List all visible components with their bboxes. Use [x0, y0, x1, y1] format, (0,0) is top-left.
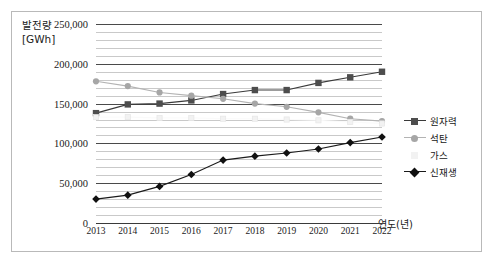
data-point-신재생-2014	[124, 191, 132, 199]
data-point-원자력-2022	[379, 69, 385, 75]
legend-marker-swatch	[411, 152, 418, 159]
data-point-가스-2019	[284, 117, 289, 122]
blank-marker	[404, 149, 426, 161]
legend-label: 가스	[430, 148, 448, 162]
circle-marker	[404, 132, 426, 144]
data-point-원자력-2018	[252, 87, 258, 93]
data-point-신재생-2020	[315, 145, 323, 153]
series-line-원자력	[96, 72, 382, 113]
legend-label: 원자력	[430, 114, 457, 128]
legend-item-원자력[interactable]: 원자력	[404, 112, 457, 129]
data-point-석탄-2013	[93, 78, 99, 84]
x-axis-tick-label: 2015	[150, 226, 169, 236]
square-marker	[404, 115, 426, 127]
y-axis-tick-label: 50,000	[59, 178, 88, 189]
data-point-원자력-2015	[156, 100, 162, 106]
data-point-석탄-2015	[156, 89, 162, 95]
data-point-원자력-2021	[347, 74, 353, 80]
data-point-석탄-2014	[125, 83, 131, 89]
gridline	[96, 223, 382, 224]
data-point-가스-2016	[189, 115, 194, 120]
data-point-신재생-2015	[156, 183, 164, 191]
data-point-가스-2015	[157, 115, 162, 120]
y-axis-tick-label: 200,000	[54, 58, 88, 69]
legend-marker-swatch	[411, 135, 418, 142]
chart-legend: 원자력석탄가스신재생	[404, 112, 457, 180]
data-point-신재생-2016	[188, 171, 196, 179]
legend-item-신재생[interactable]: 신재생	[404, 163, 457, 180]
series-lines	[96, 24, 382, 223]
data-point-석탄-2020	[315, 109, 321, 115]
plot-area: 050,000100,000150,000200,000250,000 2013…	[96, 24, 382, 223]
legend-item-가스[interactable]: 가스	[404, 146, 457, 163]
y-axis-tick-label: 150,000	[54, 98, 88, 109]
x-axis-tick-label: 2018	[245, 226, 264, 236]
x-axis-tick-label: 2022	[373, 226, 392, 236]
chart-figure: 발전량 [GWh] 연도(년) 050,000100,000150,000200…	[0, 0, 494, 265]
data-point-신재생-2019	[283, 149, 291, 157]
data-point-가스-2014	[125, 115, 130, 120]
data-point-원자력-2020	[315, 80, 321, 86]
data-point-가스-2021	[348, 119, 353, 124]
y-axis-title-line2: [GWh]	[22, 32, 82, 46]
legend-marker-swatch	[410, 167, 420, 177]
diamond-marker	[404, 166, 426, 178]
x-axis-tick-label: 2020	[309, 226, 328, 236]
x-axis-tick-label: 2014	[118, 226, 137, 236]
data-point-석탄-2018	[252, 101, 258, 107]
data-point-가스-2020	[316, 118, 321, 123]
x-axis-tick-label: 2021	[341, 226, 360, 236]
data-point-원자력-2014	[125, 101, 131, 107]
data-point-가스-2022	[379, 121, 384, 126]
data-point-원자력-2019	[283, 87, 289, 93]
data-point-석탄-2019	[284, 104, 290, 110]
series-line-신재생	[96, 137, 382, 199]
x-axis-tick-label: 2017	[214, 226, 233, 236]
data-point-가스-2018	[252, 116, 257, 121]
data-point-가스-2017	[221, 116, 226, 121]
legend-label: 신재생	[430, 165, 457, 179]
y-axis-title-line1: 발전량	[22, 19, 52, 31]
data-point-신재생-2021	[346, 139, 354, 147]
y-axis-tick-label: 250,000	[54, 19, 88, 30]
legend-marker-swatch	[411, 118, 418, 125]
legend-item-석탄[interactable]: 석탄	[404, 129, 457, 146]
data-point-신재생-2018	[251, 152, 259, 160]
x-axis-tick-label: 2019	[277, 226, 296, 236]
y-axis-tick-label: 100,000	[54, 138, 88, 149]
x-axis-tick-label: 2013	[87, 226, 106, 236]
data-point-가스-2013	[93, 115, 98, 120]
data-point-석탄-2017	[220, 96, 226, 102]
series-line-석탄	[96, 81, 382, 121]
series-line-가스	[96, 117, 382, 123]
data-point-석탄-2016	[188, 93, 194, 99]
x-axis-tick-label: 2016	[182, 226, 201, 236]
data-point-신재생-2017	[219, 156, 227, 164]
legend-label: 석탄	[430, 131, 448, 145]
